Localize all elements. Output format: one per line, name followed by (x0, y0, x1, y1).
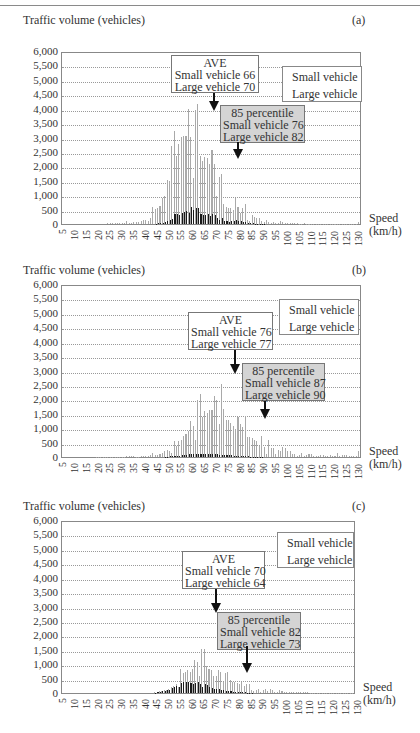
average-annotation: AVESmall vehicle 66Large vehicle 70 (171, 55, 259, 93)
bar-small-vehicle (256, 690, 257, 693)
bar-large-vehicle (162, 691, 163, 693)
bar-large-vehicle (216, 689, 217, 693)
bar-large-vehicle (193, 684, 194, 693)
bar-small-vehicle (291, 692, 292, 693)
x-tick-label: 90 (258, 699, 268, 709)
y-tick-label: 3,500 (33, 118, 58, 129)
x-tick-label: 10 (70, 699, 80, 709)
bar-small-vehicle (131, 456, 132, 457)
bar-small-vehicle (129, 456, 130, 457)
bar-large-vehicle (241, 456, 242, 457)
average-annotation: AVESmall vehicle 70Large vehicle 64 (182, 551, 265, 589)
arrow-down-icon (264, 401, 266, 409)
bar-small-vehicle (261, 436, 262, 457)
bar-small-vehicle (174, 131, 175, 224)
bar-large-vehicle (224, 455, 225, 457)
gridline (62, 609, 354, 610)
bar-large-vehicle (189, 454, 190, 457)
bar-large-vehicle (222, 218, 223, 224)
bar-large-vehicle (238, 692, 239, 693)
bar-large-vehicle (224, 221, 225, 224)
average-annotation: AVESmall vehicle 76Large vehicle 77 (188, 312, 273, 350)
bar-small-vehicle (304, 223, 305, 224)
bar-small-vehicle (330, 455, 331, 457)
bar-large-vehicle (214, 689, 215, 693)
y-tick-label: 5,000 (33, 544, 58, 555)
annotation-line-large: Large vehicle 64 (185, 577, 262, 589)
bar-large-vehicle (172, 688, 173, 693)
bar-small-vehicle (254, 440, 255, 457)
bar-small-vehicle (133, 456, 134, 457)
gridline (62, 666, 354, 667)
y-tick-label: 3,500 (33, 351, 58, 362)
bar-large-vehicle (174, 456, 175, 457)
arrow-head-icon (242, 663, 252, 673)
bar-small-vehicle (311, 454, 312, 457)
bar-small-vehicle (342, 455, 343, 457)
bar-small-vehicle (237, 417, 238, 457)
bar-small-vehicle (241, 682, 242, 693)
y-tick-label: 1,000 (33, 659, 58, 670)
bar-small-vehicle (273, 448, 274, 457)
gridline (62, 637, 354, 638)
bar-large-vehicle (198, 454, 199, 457)
bar-large-vehicle (226, 691, 227, 693)
bar-small-vehicle (286, 692, 287, 693)
bar-small-vehicle (249, 684, 250, 693)
bar-small-vehicle (242, 427, 243, 457)
x-tick-label: 85 (247, 699, 257, 709)
bar-large-vehicle (243, 456, 244, 457)
y-tick-label: 2,000 (33, 161, 58, 172)
bar-small-vehicle (167, 180, 168, 224)
bar-small-vehicle (303, 692, 304, 693)
arrow-head-icon (260, 409, 270, 419)
bar-large-vehicle (208, 214, 209, 224)
chart-panel-a: Traffic volume (vehicles)(a)05001,0001,5… (0, 0, 420, 235)
y-tick-label: 3,500 (33, 587, 58, 598)
y-tick-label: 6,000 (33, 515, 58, 526)
percentile-annotation: 85 percentileSmall vehicle 82Large vehic… (217, 612, 301, 650)
bar-small-vehicle (143, 220, 144, 224)
bar-small-vehicle (275, 223, 276, 224)
x-tick-label: 100 (282, 700, 292, 715)
bar-large-vehicle (203, 215, 204, 224)
y-tick-label: 2,500 (33, 616, 58, 627)
bar-small-vehicle (296, 692, 297, 693)
annotation-line-large: Large vehicle 82 (223, 131, 302, 143)
x-tick-label: 50 (164, 699, 174, 709)
bar-small-vehicle (152, 207, 153, 224)
bar-small-vehicle (266, 220, 267, 224)
bar-large-vehicle (193, 454, 194, 457)
x-tick-label: 95 (270, 699, 280, 709)
bar-large-vehicle (219, 689, 220, 693)
bar-large-vehicle (248, 223, 249, 224)
bar-small-vehicle (337, 453, 338, 457)
bar-small-vehicle (143, 456, 144, 457)
y-tick-label: 500 (42, 438, 59, 449)
bar-small-vehicle (159, 206, 160, 224)
x-tick-label: 70 (211, 699, 221, 709)
y-tick-label: 2,500 (33, 147, 58, 158)
legend-label-large: Large vehicle (289, 320, 354, 335)
bar-small-vehicle (275, 454, 276, 457)
arrow-head-icon (209, 101, 219, 111)
bar-large-vehicle (223, 690, 224, 693)
bar-small-vehicle (300, 692, 301, 693)
bar-large-vehicle (212, 214, 213, 224)
bar-small-vehicle (272, 690, 273, 693)
bar-small-vehicle (304, 456, 305, 457)
bar-large-vehicle (233, 692, 234, 693)
bar-small-vehicle (230, 423, 231, 457)
bar-small-vehicle (152, 453, 153, 457)
bar-small-vehicle (195, 110, 196, 224)
bar-small-vehicle (270, 689, 271, 693)
bar-small-vehicle (181, 137, 182, 224)
legend-item-small: Small vehicle (282, 535, 349, 552)
bar-small-vehicle (155, 455, 156, 457)
bar-large-vehicle (200, 684, 201, 693)
legend-item-large: Large vehicle (282, 552, 349, 569)
bar-small-vehicle (280, 221, 281, 224)
bar-large-vehicle (181, 683, 182, 693)
bar-small-vehicle (162, 198, 163, 224)
y-tick-label: 2,000 (33, 630, 58, 641)
